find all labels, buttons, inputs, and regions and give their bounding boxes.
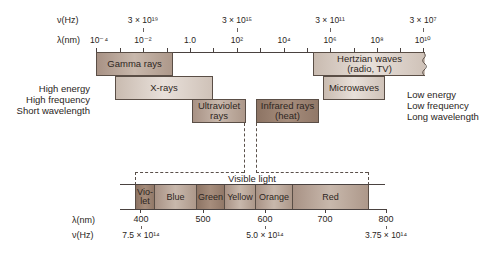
freq-tick: 3 × 10⁷ [410, 16, 437, 25]
wavelength-tick: 10² [231, 36, 243, 45]
color-label: Yellow [227, 193, 253, 202]
visible-connector-right [256, 123, 257, 173]
band-ultraviolet: Ultraviolet rays [192, 99, 246, 123]
color-red: Red [293, 185, 369, 209]
axis-tick [213, 48, 214, 52]
axis-tick [284, 48, 285, 52]
freq-tick-mark [237, 28, 238, 32]
color-yellow: Yellow [225, 185, 256, 209]
band-x-rays: X-rays [115, 76, 213, 100]
freq-tick: 3 × 10¹⁹ [128, 16, 158, 25]
wavelength-tick: 10⁻² [134, 36, 151, 45]
axis-tick [190, 48, 191, 52]
annotation-line: Long wavelength [407, 111, 479, 122]
band-gamma-rays: Gamma rays [96, 52, 173, 76]
color-violet: Vio- let [135, 185, 155, 209]
color-label: Red [322, 193, 339, 202]
band-label: (radio, TV) [347, 64, 392, 74]
wavy-edge-icon [421, 52, 429, 77]
freq-tick-mark [330, 28, 331, 32]
wavelength-tick: 10¹⁰ [415, 36, 431, 45]
freq-tick-mark [423, 28, 424, 32]
freq-tick: 3.75 × 10¹⁴ [365, 231, 407, 240]
wavelength-tick: 10⁸ [370, 36, 383, 45]
freq-tick-mark [386, 226, 387, 229]
band-label: Gamma rays [107, 59, 161, 69]
wavelength-tick: 10⁴ [277, 36, 290, 45]
low-energy-annotation: Low energy Low frequency Long wavelength [407, 89, 479, 122]
color-label: Blue [166, 193, 184, 202]
wavelength-tick: 800 [378, 215, 393, 224]
color-label: let [140, 197, 150, 206]
annotation-line: High frequency [17, 94, 90, 105]
wavelength-tick: 700 [317, 215, 332, 224]
freq-tick: 5.0 × 10¹⁴ [246, 231, 283, 240]
freq-tick-mark [143, 28, 144, 32]
axis-tick [325, 209, 326, 213]
band-label: rays [210, 111, 228, 121]
wavelength-axis-label: λ(nm) [57, 35, 80, 45]
band-label: X-rays [150, 83, 177, 93]
axis-tick [237, 48, 238, 52]
annotation-line: Short wavelength [17, 105, 90, 116]
visible-light-title: Visible light [228, 174, 276, 184]
axis-tick [265, 209, 266, 213]
axis-tick [260, 48, 261, 52]
wavelength-tick: 400 [133, 215, 148, 224]
band-label: (heat) [275, 111, 300, 121]
band-microwaves: Microwaves [323, 76, 385, 100]
axis-tick [203, 209, 204, 213]
wavelength-tick: 10⁻⁴ [90, 36, 108, 45]
axis-tick [386, 209, 387, 213]
band-label: Microwaves [329, 83, 379, 93]
visible-bottom-axis [120, 209, 386, 210]
color-orange: Orange [256, 185, 293, 209]
visible-frequency-label: ν(Hz) [72, 230, 94, 240]
freq-tick-mark [141, 226, 142, 229]
freq-tick: 3 × 10¹⁵ [222, 16, 252, 25]
color-label: Green [198, 193, 223, 202]
wavelength-tick: 600 [257, 215, 272, 224]
frequency-axis-label: ν(Hz) [57, 15, 79, 25]
freq-tick: 7.5 × 10¹⁴ [122, 231, 159, 240]
axis-tick [307, 48, 308, 52]
visible-wavelength-label: λ(nm) [72, 215, 95, 225]
annotation-line: Low energy [407, 89, 479, 100]
color-label: Orange [259, 193, 289, 202]
wavelength-tick: 10⁶ [324, 36, 337, 45]
annotation-line: Low frequency [407, 100, 479, 111]
annotation-line: High energy [17, 83, 90, 94]
visible-connector-left [244, 123, 245, 173]
freq-tick-mark [265, 226, 266, 229]
wavelength-tick: 1.0 [184, 36, 196, 45]
high-energy-annotation: High energy High frequency Short wavelen… [17, 83, 90, 116]
axis-tick [140, 209, 141, 213]
wavelength-tick: 500 [195, 215, 210, 224]
color-green: Green [197, 185, 225, 209]
freq-tick: 3 × 10¹¹ [315, 16, 345, 25]
band-infrared: Infrared rays (heat) [256, 99, 319, 123]
band-hertzian-waves: Hertzian waves (radio, TV) [313, 52, 425, 76]
color-blue: Blue [155, 185, 197, 209]
